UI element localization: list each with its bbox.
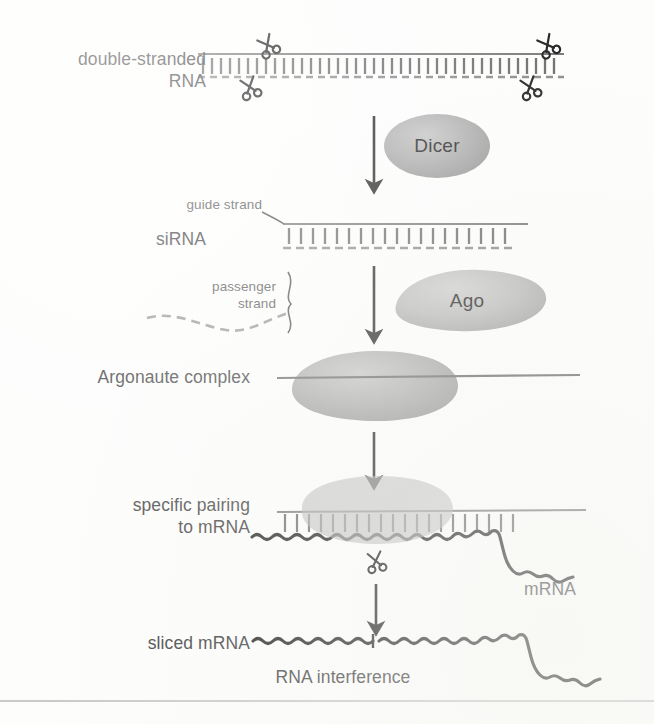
passenger-strand-brace [288, 272, 291, 333]
rnai-figure: double-stranded RNA Dicer guide strand s… [0, 0, 654, 724]
label-sirna: siRNA [40, 228, 206, 250]
label-specific-pairing: specific pairing to mRNA [34, 494, 250, 538]
label-argonaute-complex: Argonaute complex [26, 366, 250, 388]
dicer-label: Dicer [399, 135, 475, 157]
passenger-strand-free [147, 312, 292, 331]
sliced-mrna-left-fragment [253, 639, 373, 644]
rnai-diagram-canvas [0, 0, 654, 724]
sirna-base-pairs [289, 228, 505, 244]
scissors-icon [365, 551, 387, 574]
sirna-duplex [283, 224, 528, 248]
scissors-icon [518, 76, 543, 101]
dsrna-duplex [198, 33, 564, 101]
annotation-passenger-strand: passenger strand [176, 278, 276, 312]
scissors-icon [255, 33, 282, 60]
figure-caption: RNA interference [232, 666, 454, 688]
scissors-icon [535, 33, 562, 60]
dsrna-base-pairs [203, 58, 554, 74]
scissors-icon [238, 76, 263, 101]
ago-label: Ago [434, 290, 500, 312]
label-double-stranded-rna: double-stranded RNA [20, 48, 206, 92]
argonaute-complex-shape [292, 351, 458, 421]
guide-strand-leader [262, 212, 284, 224]
argonaute-pairing-shape [302, 476, 453, 544]
annotation-mrna: mRNA [500, 578, 600, 600]
label-sliced-mrna: sliced mRNA [66, 632, 250, 654]
specific-pairing-group [252, 476, 586, 582]
annotation-guide-strand: guide strand [150, 196, 262, 213]
